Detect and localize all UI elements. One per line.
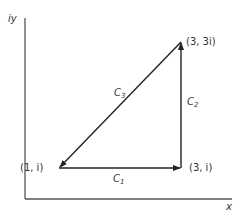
c3-subscript: 3 xyxy=(121,92,125,100)
point-label-3-3i: (3, 3i) xyxy=(186,37,216,47)
c1-subscript: 1 xyxy=(120,178,124,186)
y-axis-label: iy xyxy=(8,14,17,24)
point-label-1-i: (1, i) xyxy=(20,163,43,173)
x-axis-label: x xyxy=(226,202,232,212)
c1-letter: C xyxy=(113,173,120,184)
c2-subscript: 2 xyxy=(194,101,198,109)
segment-label-c1: C1 xyxy=(113,174,124,186)
segment-c3 xyxy=(60,42,181,167)
c2-letter: C xyxy=(187,96,194,107)
point-label-3-i: (3, i) xyxy=(189,163,212,173)
c3-letter: C xyxy=(114,87,121,98)
segment-label-c3: C3 xyxy=(114,88,125,100)
contour-diagram xyxy=(0,0,246,219)
segment-label-c2: C2 xyxy=(187,97,198,109)
